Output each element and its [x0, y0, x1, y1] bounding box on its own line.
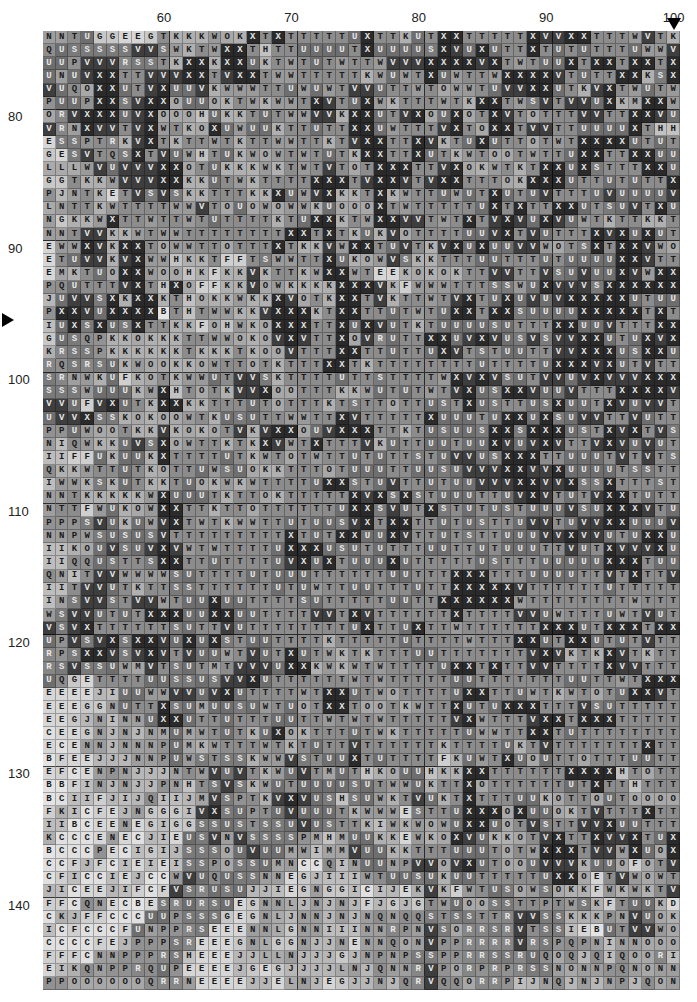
grid-cell: X — [540, 176, 553, 189]
grid-cell: Q — [565, 937, 578, 950]
grid-cell: U — [451, 491, 464, 504]
grid-cell: X — [438, 44, 451, 57]
grid-cell: U — [463, 136, 476, 149]
grid-cell: W — [183, 241, 196, 254]
grid-cell: K — [311, 281, 324, 294]
grid-cell: T — [616, 31, 629, 44]
grid-cell: T — [527, 202, 540, 215]
grid-cell: W — [247, 84, 260, 97]
grid-cell: X — [629, 845, 642, 858]
grid-cell: K — [209, 478, 222, 491]
grid-cell: H — [425, 767, 438, 780]
grid-cell: T — [438, 478, 451, 491]
grid-cell: W — [629, 31, 642, 44]
grid-cell: T — [247, 740, 260, 753]
grid-cell: T — [540, 543, 553, 556]
grid-cell: K — [234, 281, 247, 294]
grid-cell: S — [425, 911, 438, 924]
grid-cell: V — [412, 793, 425, 806]
grid-cell: T — [476, 412, 489, 425]
grid-cell: T — [604, 780, 617, 793]
grid-cell: I — [107, 714, 120, 727]
grid-cell: N — [132, 714, 145, 727]
grid-cell: T — [387, 202, 400, 215]
grid-cell: T — [119, 202, 132, 215]
grid-cell: K — [323, 294, 336, 307]
grid-cell: O — [183, 425, 196, 438]
grid-cell: O — [425, 819, 438, 832]
x-tick-label: 80 — [412, 10, 426, 25]
grid-cell: J — [349, 951, 362, 964]
grid-cell: K — [170, 320, 183, 333]
grid-cell: T — [221, 570, 234, 583]
grid-cell: F — [132, 885, 145, 898]
grid-cell: J — [387, 885, 400, 898]
grid-cell: T — [336, 609, 349, 622]
grid-cell: T — [323, 320, 336, 333]
grid-cell: U — [183, 570, 196, 583]
grid-cell: K — [438, 740, 451, 753]
grid-cell: S — [158, 44, 171, 57]
grid-cell: T — [387, 110, 400, 123]
grid-cell: T — [578, 386, 591, 399]
grid-cell: T — [400, 727, 413, 740]
grid-cell: U — [374, 84, 387, 97]
grid-cell: T — [387, 662, 400, 675]
grid-cell: Q — [107, 149, 120, 162]
grid-cell: T — [183, 556, 196, 569]
grid-cell: V — [489, 478, 502, 491]
grid-cell: X — [527, 635, 540, 648]
grid-cell: X — [336, 425, 349, 438]
grid-cell: X — [489, 189, 502, 202]
grid-cell: T — [502, 727, 515, 740]
grid-cell: T — [196, 412, 209, 425]
grid-cell: X — [502, 425, 515, 438]
grid-cell: T — [667, 399, 680, 412]
grid-cell: X — [311, 438, 324, 451]
grid-cell: C — [81, 937, 94, 950]
grid-cell: U — [336, 44, 349, 57]
grid-cell: X — [514, 412, 527, 425]
grid-cell: T — [476, 675, 489, 688]
grid-cell: T — [349, 648, 362, 661]
grid-cell: K — [94, 176, 107, 189]
grid-cell: T — [565, 70, 578, 83]
grid-cell: X — [260, 438, 273, 451]
grid-cell: O — [298, 425, 311, 438]
grid-cell: V — [527, 714, 540, 727]
grid-cell: U — [489, 504, 502, 517]
grid-cell: U — [565, 399, 578, 412]
grid-cell: T — [565, 110, 578, 123]
grid-cell: X — [298, 307, 311, 320]
grid-cell: T — [616, 780, 629, 793]
grid-cell: J — [107, 885, 120, 898]
grid-cell: U — [43, 412, 56, 425]
grid-cell: O — [400, 228, 413, 241]
grid-cell: P — [68, 530, 81, 543]
grid-cell: N — [374, 924, 387, 937]
grid-cell: T — [311, 162, 324, 175]
grid-cell: O — [170, 110, 183, 123]
grid-cell: T — [438, 583, 451, 596]
grid-cell: K — [183, 189, 196, 202]
grid-cell: T — [272, 57, 285, 70]
grid-cell: N — [591, 964, 604, 977]
grid-cell: S — [336, 543, 349, 556]
grid-cell: X — [604, 543, 617, 556]
grid-cell: S — [56, 386, 69, 399]
grid-cell: X — [629, 281, 642, 294]
grid-cell: V — [285, 556, 298, 569]
grid-cell: K — [234, 478, 247, 491]
grid-cell: W — [565, 898, 578, 911]
grid-cell: T — [272, 596, 285, 609]
grid-cell: X — [349, 504, 362, 517]
grid-cell: U — [400, 386, 413, 399]
grid-cell: X — [158, 609, 171, 622]
grid-cell: V — [412, 859, 425, 872]
grid-cell: I — [145, 859, 158, 872]
grid-cell: X — [170, 609, 183, 622]
grid-cell: V — [476, 465, 489, 478]
grid-cell: X — [578, 333, 591, 346]
grid-cell: T — [412, 478, 425, 491]
grid-cell: K — [361, 648, 374, 661]
